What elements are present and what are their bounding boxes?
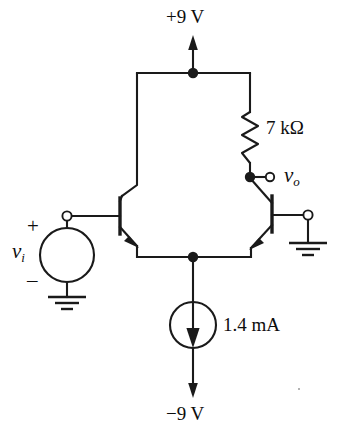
output-terminal-circle[interactable] [266,173,274,181]
source-ground-symbol [48,297,86,309]
positive-supply-arrow [188,35,198,73]
output-voltage-label: vo [284,165,300,186]
input-terminal-circle[interactable] [62,211,71,220]
input-polarity-minus: – [27,270,38,291]
output-voltage-symbol: v [284,163,293,187]
negative-supply-label: −9 V [166,404,204,423]
input-voltage-symbol: v [12,239,21,263]
input-polarity-plus: + [27,216,39,237]
q1-collector-wire [122,74,137,196]
circuit-figure: +9 V 7 kΩ vo + vi – 1.4 mA −9 V [0,0,338,442]
page-speck [298,388,300,390]
positive-supply-label: +9 V [166,7,204,26]
current-source-value-label: 1.4 mA [223,315,280,334]
output-voltage-subscript: o [293,174,300,189]
input-voltage-subscript: i [21,250,25,265]
base-terminal-circle[interactable] [303,210,312,219]
resistor-value-label: 7 kΩ [266,118,304,137]
input-voltage-source [40,221,94,297]
base-ground-symbol [289,220,327,255]
top-supply-node-dot [188,68,198,78]
input-voltage-label: vi [12,241,25,262]
circuit-schematic-drawing [0,0,338,442]
load-resistor-zigzag [242,112,258,163]
negative-supply-arrow [188,383,198,398]
tail-current-source [170,257,216,385]
